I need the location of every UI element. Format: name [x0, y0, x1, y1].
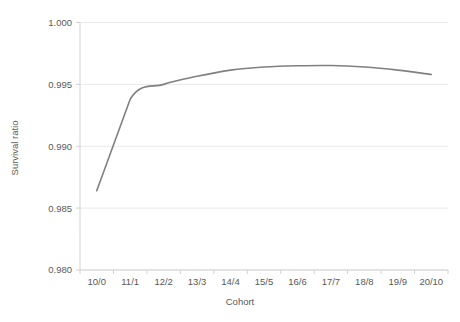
x-tick-label: 19/9	[389, 276, 408, 287]
y-tick-label: 1.000	[48, 17, 72, 28]
y-tick-label: 0.995	[48, 79, 72, 90]
x-tick-label: 11/1	[121, 276, 139, 287]
y-tick-label: 0.985	[48, 203, 72, 214]
y-tick-label: 0.990	[48, 141, 72, 152]
chart-canvas: 1.0000.9950.9900.9850.980 10/011/112/213…	[0, 0, 460, 322]
x-tick-label: 13/3	[188, 276, 207, 287]
x-tick-label: 16/6	[288, 276, 307, 287]
x-tick-label: 10/0	[87, 276, 106, 287]
y-axis-tick-labels: 1.0000.9950.9900.9850.980	[48, 17, 72, 276]
x-tick-label: 14/4	[221, 276, 240, 287]
x-axis-title: Cohort	[226, 296, 255, 307]
survival-ratio-chart: 1.0000.9950.9900.9850.980 10/011/112/213…	[0, 0, 460, 322]
gridlines	[80, 23, 448, 271]
x-tick-label: 18/8	[355, 276, 374, 287]
x-tick-label: 15/5	[255, 276, 274, 287]
x-tick-label: 17/7	[322, 276, 341, 287]
tick-marks	[76, 23, 448, 275]
x-axis-tick-labels: 10/011/112/213/314/415/516/617/718/819/9…	[87, 276, 443, 287]
y-axis-title: Survival ratio	[9, 121, 20, 176]
y-tick-label: 0.980	[48, 264, 72, 275]
x-tick-label: 12/2	[154, 276, 173, 287]
x-tick-label: 20/10	[419, 276, 443, 287]
